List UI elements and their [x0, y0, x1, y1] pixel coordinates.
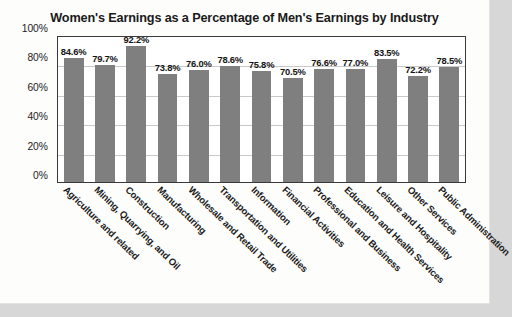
bar-group: 76.6% — [314, 37, 334, 182]
bar-value-label: 72.2% — [405, 64, 431, 75]
y-axis-tick-label: 60% — [27, 81, 48, 92]
plot-area: 84.6%79.7%92.2%73.8%76.0%78.6%75.8%70.5%… — [57, 36, 466, 183]
chart-title: Women's Earnings as a Percentage of Men'… — [0, 11, 489, 25]
bar-group: 78.5% — [439, 37, 459, 182]
bar-group: 70.5% — [283, 37, 303, 182]
bar-value-label: 76.6% — [311, 57, 337, 68]
bar-value-label: 78.5% — [437, 55, 463, 66]
bar — [408, 76, 428, 182]
bar-group: 77.0% — [346, 37, 366, 182]
bar — [346, 69, 366, 182]
bar-group: 84.6% — [64, 37, 84, 182]
bar-value-label: 75.8% — [249, 59, 275, 70]
bar-group: 79.7% — [95, 37, 115, 182]
bar-value-label: 76.0% — [186, 58, 212, 69]
bar — [377, 59, 397, 182]
bar-value-label: 78.6% — [217, 54, 243, 65]
y-axis-tick-label: 0% — [33, 170, 48, 181]
bar — [252, 71, 272, 182]
bar — [439, 67, 459, 182]
x-axis-category-labels: Agriculture and relatedMining, Quarrying… — [57, 184, 487, 303]
bar-value-label: 92.2% — [123, 34, 149, 45]
y-axis-tick-label: 20% — [27, 140, 48, 151]
bar-group: 92.2% — [126, 37, 146, 182]
y-axis-tick-label: 80% — [27, 52, 48, 63]
bar-series: 84.6%79.7%92.2%73.8%76.0%78.6%75.8%70.5%… — [58, 37, 465, 182]
bar — [314, 69, 334, 182]
bar-group: 76.0% — [189, 37, 209, 182]
bar-group: 78.6% — [220, 37, 240, 182]
bar-value-label: 83.5% — [374, 47, 400, 58]
bar — [95, 65, 115, 182]
bar-group: 83.5% — [377, 37, 397, 182]
bar-value-label: 77.0% — [343, 57, 369, 68]
bar — [220, 66, 240, 182]
bar-value-label: 79.7% — [92, 53, 118, 64]
bar — [158, 74, 178, 182]
bar-value-label: 70.5% — [280, 66, 306, 77]
bar-value-label: 73.8% — [155, 62, 181, 73]
chart-page: Women's Earnings as a Percentage of Men'… — [0, 0, 489, 303]
bar — [64, 58, 84, 182]
bar-group: 75.8% — [252, 37, 272, 182]
y-axis-tick-label: 100% — [22, 23, 48, 34]
bar — [283, 78, 303, 182]
bar — [126, 46, 146, 182]
bar-group: 72.2% — [408, 37, 428, 182]
bar-group: 73.8% — [158, 37, 178, 182]
bar — [189, 70, 209, 182]
y-axis-tick-label: 40% — [27, 111, 48, 122]
bar-value-label: 84.6% — [61, 46, 87, 57]
y-axis: 0%20%40%60%80%100% — [0, 28, 52, 175]
